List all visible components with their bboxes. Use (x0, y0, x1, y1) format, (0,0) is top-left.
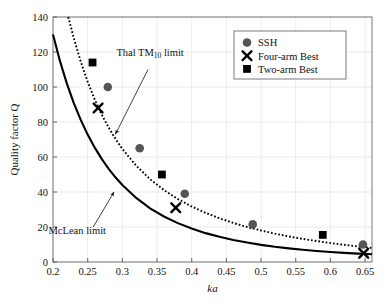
figure-container: 0.20.250.30.350.40.450.50.550.60.6502040… (0, 0, 392, 306)
annotation-label: McLean limit (49, 225, 107, 236)
data-point-ssh (135, 144, 144, 153)
x-axis-tick-label: 0.55 (287, 266, 305, 277)
quality-factor-chart: 0.20.250.30.350.40.450.50.550.60.6502040… (0, 0, 392, 306)
annotation-arrow (93, 192, 114, 227)
legend-label-four-arm-best: Four-arm Best (258, 51, 319, 62)
legend-marker-two-arm-best (243, 65, 251, 73)
annotation-label: Thal TM10 limit (116, 47, 183, 61)
data-point-two-arm-best (319, 231, 327, 239)
y-axis-tick-label: 120 (32, 47, 48, 58)
data-point-two-arm-best (158, 171, 166, 179)
x-axis-tick-label: 0.45 (217, 266, 235, 277)
y-axis-tick-label: 0 (43, 257, 48, 268)
data-point-ssh (103, 83, 112, 92)
y-axis-tick-label: 140 (32, 12, 48, 23)
data-point-ssh (248, 220, 257, 229)
x-axis-tick-label: 0.3 (116, 266, 129, 277)
annotation-arrow (115, 70, 148, 135)
legend-label-ssh: SSH (258, 37, 278, 48)
y-axis-label: Quality factor Q (8, 103, 20, 175)
x-axis-tick-label: 0.65 (356, 266, 374, 277)
x-axis-tick-label: 0.35 (148, 266, 166, 277)
x-axis-tick-label: 0.25 (78, 266, 96, 277)
data-point-four-arm-best (171, 203, 180, 212)
legend-label-two-arm-best: Two-arm Best (258, 64, 318, 75)
data-point-ssh (359, 240, 368, 249)
x-axis-tick-label: 0.5 (254, 266, 267, 277)
y-axis-tick-label: 80 (38, 117, 49, 128)
x-axis-tick-label: 0.2 (46, 266, 59, 277)
x-axis-label: ka (207, 282, 218, 294)
y-axis-tick-label: 100 (32, 82, 48, 93)
data-point-ssh (180, 189, 189, 198)
y-axis-tick-label: 40 (38, 187, 49, 198)
data-point-two-arm-best (89, 59, 97, 67)
legend-marker-ssh (243, 38, 252, 47)
y-axis-tick-label: 20 (38, 222, 49, 233)
x-axis-tick-label: 0.4 (185, 266, 199, 277)
x-axis-tick-label: 0.6 (324, 266, 337, 277)
y-axis-tick-label: 60 (38, 152, 49, 163)
